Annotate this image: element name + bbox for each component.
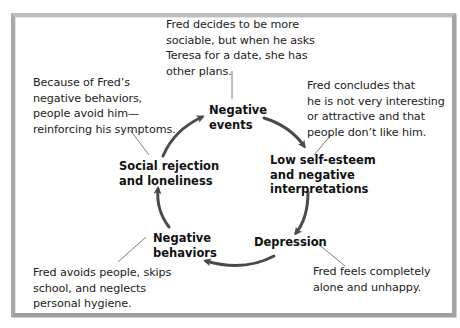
note-social-rejection: Because of Fred’s negative behaviors, pe… bbox=[33, 75, 176, 137]
arrow-behaviors-to-rejection bbox=[158, 189, 169, 227]
node-social-rejection: Social rejection and loneliness bbox=[119, 159, 219, 188]
note-negative-events: Fred decides to be more sociable, but wh… bbox=[166, 17, 315, 79]
node-negative-behaviors: Negative behaviors bbox=[153, 231, 217, 260]
arrow-events-to-self-esteem bbox=[264, 118, 304, 146]
note-depression: Fred feels completely alone and unhappy. bbox=[313, 264, 431, 295]
node-negative-events: Negative events bbox=[209, 103, 267, 132]
note-low-self-esteem: Fred concludes that he is not very inter… bbox=[307, 78, 445, 140]
arrow-self-esteem-to-depression bbox=[296, 192, 308, 233]
leader-line-behaviors bbox=[118, 237, 146, 262]
node-depression: Depression bbox=[254, 235, 327, 250]
note-negative-behaviors: Fred avoids people, skips school, and ne… bbox=[33, 265, 171, 312]
node-low-self-esteem: Low self-esteem and negative interpretat… bbox=[270, 153, 376, 197]
